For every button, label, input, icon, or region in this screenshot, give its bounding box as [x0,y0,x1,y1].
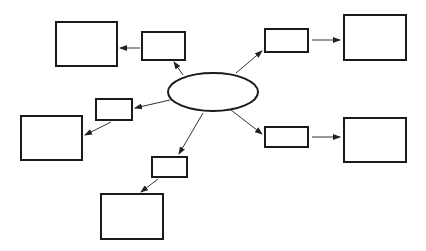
left-large-box [21,116,82,160]
arrow-bottom-small-to-large-box [141,179,158,192]
arrow-center-to-bottom-right-small-box [231,110,262,134]
left-small-box [96,99,132,120]
arrow-center-to-left-small-box [135,100,170,108]
top-right-large-box [344,15,406,60]
bottom-small-box [152,157,187,177]
bottom-right-large-box [344,118,406,162]
arrow-center-to-top-right-small-box [236,51,262,73]
top-left-small-box [142,32,185,60]
top-left-large-box [56,22,117,66]
mind-map-diagram [0,0,426,251]
top-right-small-box [265,29,308,52]
bottom-large-box [101,194,163,239]
branch-top-left [56,22,185,75]
arrow-center-to-top-left-small-box [174,62,183,75]
diagram-canvas [0,0,426,251]
branch-bottom-right [231,110,406,162]
arrow-center-to-bottom-small-box [179,113,203,154]
center-node [168,73,258,111]
branch-bottom [101,113,203,239]
branches-group [21,15,406,239]
bottom-right-small-box [265,127,308,147]
branch-top-right [236,15,406,73]
branch-left [21,99,170,160]
arrow-left-small-to-large-box [85,122,111,135]
